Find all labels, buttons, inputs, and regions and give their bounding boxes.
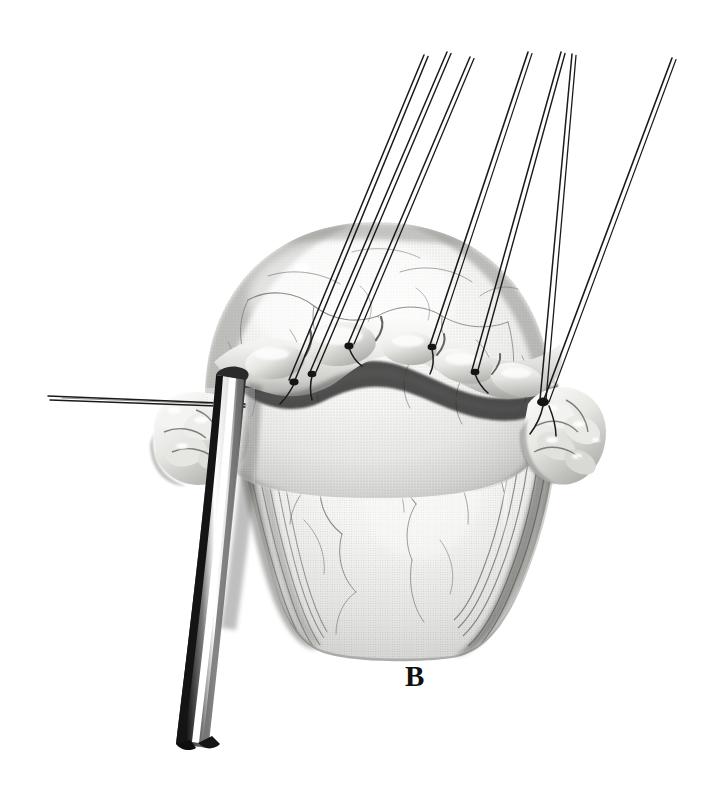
figure-panel: B	[0, 0, 709, 794]
panel-label: B	[405, 662, 424, 691]
flocculus-right-lobules	[520, 387, 606, 485]
bottom-fade	[200, 600, 600, 690]
surgical-illustration-canvas	[0, 0, 709, 794]
